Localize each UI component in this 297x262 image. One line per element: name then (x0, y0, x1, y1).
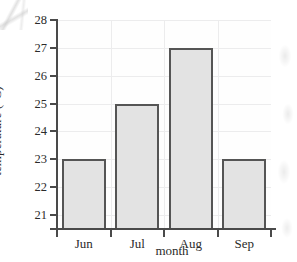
y-axis-title: temperature (°C) (0, 0, 22, 262)
x-axis-title: month (57, 243, 287, 259)
bar (62, 159, 106, 230)
y-axis-tick (50, 19, 57, 21)
y-axis-tick (50, 75, 57, 77)
y-axis-tick-label: 24 (21, 125, 47, 137)
y-axis-tick-label: 27 (21, 42, 47, 54)
y-axis-tick-label: 28 (21, 14, 47, 26)
y-axis-tick (50, 186, 57, 188)
plot-area (57, 20, 271, 229)
bar (169, 48, 213, 230)
y-axis-tick (50, 47, 57, 49)
bar (222, 159, 266, 230)
y-axis-tick (50, 130, 57, 132)
y-axis-tick-label: 21 (21, 209, 47, 221)
gridline-vertical (111, 20, 112, 229)
y-axis-line (56, 19, 58, 230)
y-axis-tick-label: 22 (21, 181, 47, 193)
y-axis-tick-label: 26 (21, 70, 47, 82)
y-axis-tick (50, 158, 57, 160)
gridline-vertical (218, 20, 219, 229)
scan-artifact-right-edge-icon (275, 16, 297, 252)
bar-chart: temperature (°C) 2122232425262728 JunJul… (0, 0, 297, 262)
y-axis-title-text: temperature (°C) (0, 86, 5, 175)
y-axis-tick-label: 23 (21, 153, 47, 165)
bar (115, 104, 159, 230)
gridline-vertical (164, 20, 165, 229)
y-axis-tick-label: 25 (21, 98, 47, 110)
y-axis-tick (50, 214, 57, 216)
y-axis-tick (50, 103, 57, 105)
